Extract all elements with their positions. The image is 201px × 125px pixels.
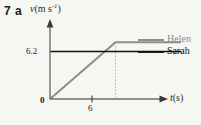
plot-canvas [0, 0, 201, 125]
velocity-time-graph-figure: 7 a v(m s-1) t(s) 6.2 0 6 Helen Sarah [0, 0, 201, 125]
x-axis-arrowhead [160, 96, 169, 103]
y-axis-arrowhead [47, 19, 54, 28]
